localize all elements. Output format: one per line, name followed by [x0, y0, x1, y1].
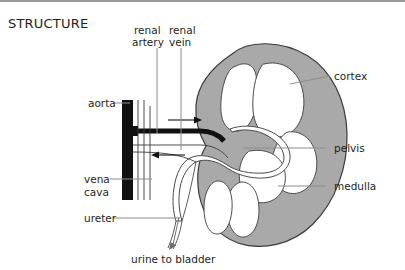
aorta-vessel: [122, 100, 133, 200]
label-vena-cava-line2: cava: [84, 186, 109, 198]
label-urine-to-bladder: urine to bladder: [131, 253, 216, 265]
label-cortex: cortex: [334, 70, 367, 82]
label-vena-cava-line1: vena: [84, 173, 110, 185]
renal-artery-aorta-junction: [130, 126, 138, 136]
label-aorta: aorta: [88, 97, 116, 109]
label-medulla: medulla: [334, 180, 376, 192]
label-renal-artery-line1: renal: [134, 24, 161, 36]
medulla-pyramid-bottom-left: [204, 181, 232, 234]
figure-panel: STRUCTURE renal artery renal vein aorta …: [0, 0, 405, 270]
urine-flow-arrow: [169, 217, 179, 250]
vessel-wall-lines: [138, 100, 150, 200]
page-title: STRUCTURE: [8, 16, 88, 31]
label-renal-vein-line2: vein: [169, 36, 191, 48]
kidney-structure-diagram: STRUCTURE renal artery renal vein aorta …: [0, 2, 405, 270]
aorta-vena-cava-bar: [122, 100, 133, 200]
label-pelvis: pelvis: [334, 142, 365, 154]
label-renal-artery-line2: artery: [132, 36, 164, 48]
label-ureter: ureter: [84, 212, 117, 224]
label-renal-vein-line1: renal: [169, 24, 196, 36]
